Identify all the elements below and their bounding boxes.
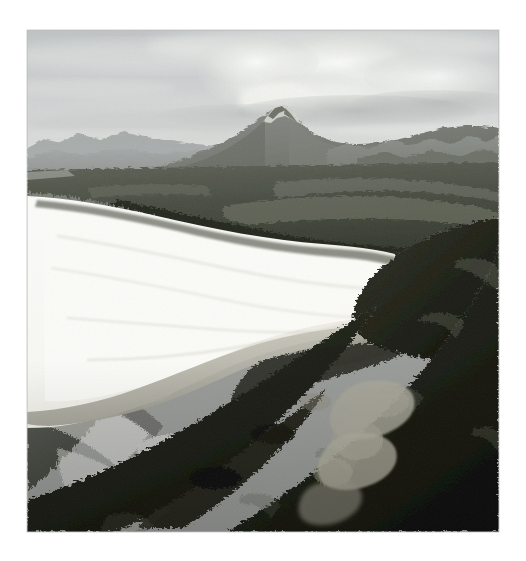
photo-scene [27, 30, 499, 532]
photograph-artwork [27, 30, 499, 532]
photograph [27, 30, 499, 532]
page-canvas: Aerial view of a crescent sand beach bac… [0, 0, 526, 561]
bottom-vignette [27, 360, 499, 532]
